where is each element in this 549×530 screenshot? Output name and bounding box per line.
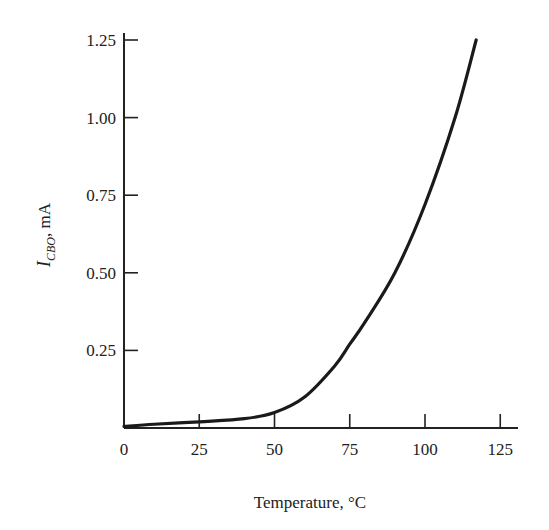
y-tick-label: 0.50	[86, 264, 116, 283]
x-tick-label: 0	[120, 440, 129, 459]
y-axis-title-rest: , mA	[35, 202, 54, 237]
x-tick-label: 50	[266, 440, 283, 459]
y-tick-label: 1.25	[86, 31, 116, 50]
axes	[124, 33, 518, 428]
y-tick-label: 0.75	[86, 186, 116, 205]
y-tick-label: 0.25	[86, 341, 116, 360]
y-axis-title-sub: CBO	[44, 237, 58, 261]
x-tick-label: 125	[488, 440, 514, 459]
ticks	[124, 40, 500, 428]
chart: 02550751001250.250.500.751.001.25 Temper…	[0, 0, 549, 530]
x-axis-title: Temperature, °C	[254, 493, 366, 512]
x-tick-label: 75	[341, 440, 358, 459]
tick-labels: 02550751001250.250.500.751.001.25	[86, 31, 513, 459]
y-tick-label: 1.00	[86, 109, 116, 128]
x-tick-label: 25	[191, 440, 208, 459]
data-curve	[124, 40, 476, 426]
x-tick-label: 100	[412, 440, 438, 459]
y-axis-title: ICBO, mA	[34, 202, 58, 268]
